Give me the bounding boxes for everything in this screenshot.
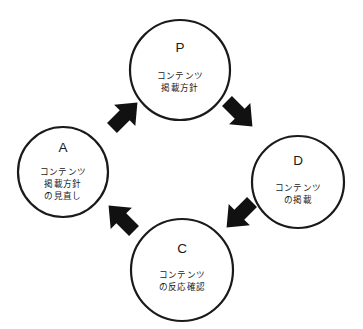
node-check-letter: C xyxy=(177,241,187,256)
node-do-letter: D xyxy=(293,153,303,168)
node-act-desc-line-3: の見直し xyxy=(44,190,81,201)
cycle-svg-canvas: P コンテンツ 掲載方針 D コンテンツ の掲載 C コンテンツ の反応確認 A… xyxy=(0,0,363,329)
node-check: C コンテンツ の反応確認 xyxy=(131,219,233,321)
arrow-check-to-act-icon xyxy=(98,195,145,242)
node-act-desc-line-2: 掲載方針 xyxy=(44,178,81,189)
arrow-plan-to-do-icon xyxy=(216,90,263,137)
node-plan: P コンテンツ 掲載方針 xyxy=(130,20,230,120)
node-check-desc-line-2: の反応確認 xyxy=(159,281,206,292)
pdca-cycle-diagram: P コンテンツ 掲載方針 D コンテンツ の掲載 C コンテンツ の反応確認 A… xyxy=(0,0,363,329)
node-check-desc-line-1: コンテンツ xyxy=(159,270,206,280)
node-act: A コンテンツ 掲載方針 の見直し xyxy=(18,127,108,217)
node-act-desc-line-1: コンテンツ xyxy=(40,167,87,177)
node-do: D コンテンツ の掲載 xyxy=(252,136,344,228)
node-act-letter: A xyxy=(58,140,67,155)
node-plan-desc-line-2: 掲載方針 xyxy=(161,82,198,93)
node-do-desc-line-2: の掲載 xyxy=(284,194,312,205)
node-plan-desc-line-1: コンテンツ xyxy=(157,71,204,81)
node-plan-letter: P xyxy=(175,40,184,55)
node-do-desc-line-1: コンテンツ xyxy=(275,183,322,193)
